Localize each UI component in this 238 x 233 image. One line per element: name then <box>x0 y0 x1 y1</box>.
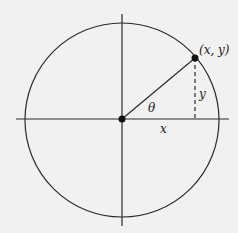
theta-label: θ <box>148 101 156 115</box>
background <box>0 0 238 233</box>
point-label: (x, y) <box>199 43 230 57</box>
origin-point <box>119 116 126 123</box>
point-xy <box>192 55 199 62</box>
y-label: y <box>198 87 206 101</box>
unit-circle-diagram: (x, y) θ y x <box>0 0 238 233</box>
x-label: x <box>160 122 167 136</box>
